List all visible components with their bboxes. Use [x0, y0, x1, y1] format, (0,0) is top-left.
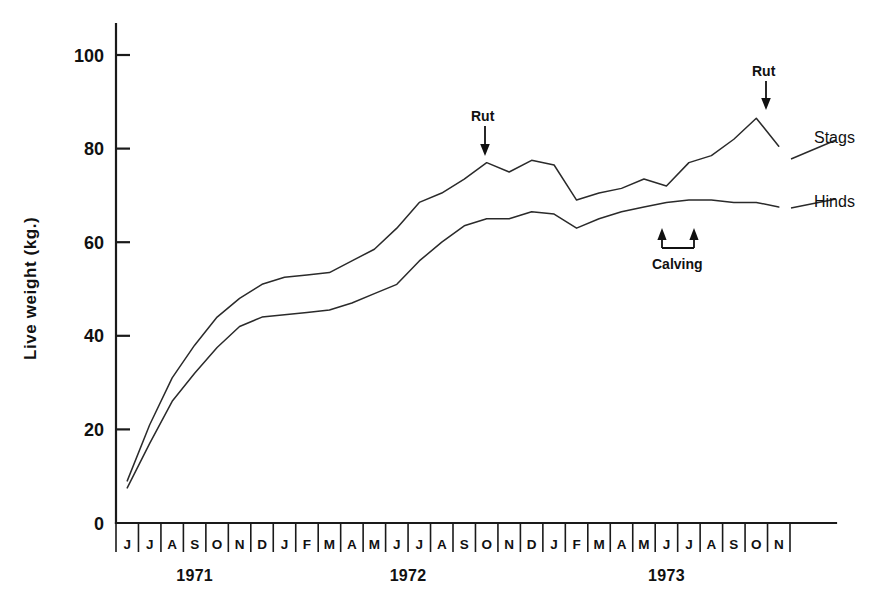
x-axis-month-label: O — [481, 537, 492, 552]
rut-1973-label: Rut — [752, 63, 776, 79]
calving-bracket — [662, 239, 694, 248]
y-axis-label: Live weight (kg.) — [21, 217, 40, 360]
series-label-hinds-group: Hinds — [791, 193, 855, 210]
series-label-stags: Stags — [814, 129, 855, 146]
x-axis-month-label: D — [257, 537, 267, 552]
x-axis-month-label: J — [663, 537, 671, 552]
x-axis-year-labels: 197119721973 — [176, 567, 685, 584]
x-axis-month-label: A — [347, 537, 357, 552]
x-axis-month-label: M — [324, 537, 335, 552]
series-label-stags-group: Stags — [791, 129, 855, 159]
x-axis-month-label: M — [593, 537, 604, 552]
calving-arrow-head-right — [689, 228, 698, 240]
y-axis-tick-label: 100 — [74, 46, 104, 66]
x-axis-month-label: J — [281, 537, 289, 552]
rut-1973-arrow-head — [761, 98, 771, 110]
y-axis-tick-label: 0 — [94, 514, 104, 534]
series-line-stags — [127, 118, 779, 481]
x-axis-month-label: J — [416, 537, 424, 552]
x-axis-month-label: S — [729, 537, 738, 552]
series-label-hinds: Hinds — [814, 193, 855, 210]
x-axis-year-label: 1972 — [390, 567, 427, 584]
annotation-rut-1972: Rut — [471, 108, 495, 156]
x-axis-month-label: J — [550, 537, 558, 552]
annotation-rut-1973: Rut — [752, 63, 776, 110]
y-axis-tick-label: 20 — [84, 420, 104, 440]
x-axis-month-label: J — [123, 537, 131, 552]
rut-1972-arrow-head — [480, 144, 490, 156]
series-group — [127, 118, 779, 488]
y-axis-ticks: 020406080100 — [74, 46, 130, 534]
x-axis-month-label: F — [572, 537, 580, 552]
x-axis-month-label: M — [369, 537, 380, 552]
x-axis-month-label: N — [774, 537, 784, 552]
y-axis-tick-label: 80 — [84, 139, 104, 159]
x-axis-month-label: J — [685, 537, 693, 552]
y-axis-label-text: Live weight (kg.) — [21, 217, 40, 360]
x-axis-month-label: N — [504, 537, 514, 552]
x-axis-month-label: M — [638, 537, 649, 552]
y-axis-tick-label: 40 — [84, 326, 104, 346]
rut-1972-label: Rut — [471, 108, 495, 124]
x-axis-month-label: S — [190, 537, 199, 552]
x-axis-year-label: 1971 — [176, 567, 213, 584]
calving-arrow-head-left — [657, 228, 666, 240]
chart-canvas: Live weight (kg.) 020406080100 JJASONDJF… — [0, 0, 879, 604]
x-axis-month-label: O — [751, 537, 762, 552]
annotation-calving: Calving — [652, 228, 703, 272]
x-axis-year-label: 1973 — [648, 567, 685, 584]
x-axis-month-label: N — [235, 537, 245, 552]
x-axis-month-label: F — [303, 537, 311, 552]
live-weight-chart: Live weight (kg.) 020406080100 JJASONDJF… — [0, 0, 879, 604]
x-axis-month-label: J — [146, 537, 154, 552]
series-line-hinds — [127, 200, 779, 488]
axes — [116, 24, 836, 523]
x-axis-month-label: A — [706, 537, 716, 552]
x-axis-month-label: O — [212, 537, 223, 552]
x-axis-month-label: J — [393, 537, 401, 552]
x-axis-month-label: S — [460, 537, 469, 552]
x-axis-month-label: A — [617, 537, 627, 552]
x-axis-month-label: D — [527, 537, 537, 552]
x-axis-month-label: A — [437, 537, 447, 552]
calving-label: Calving — [652, 256, 703, 272]
y-axis-tick-label: 60 — [84, 233, 104, 253]
x-axis-month-label: A — [167, 537, 177, 552]
